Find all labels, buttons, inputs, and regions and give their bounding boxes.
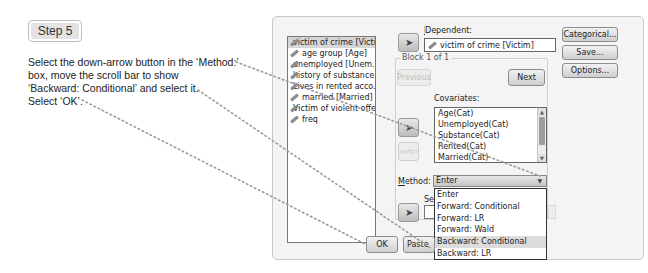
scale-variable-icon (428, 42, 437, 49)
next-button[interactable]: Next (508, 69, 545, 86)
previous-button[interactable]: Previous (397, 69, 431, 86)
variable-item[interactable]: Victim of violent offe... (288, 103, 375, 114)
variable-list[interactable]: victim of crime [Victim] age group [Age]… (287, 36, 376, 243)
variable-item[interactable]: unemployed [Unem... (288, 59, 375, 70)
variable-label: unemployed [Unem... (293, 59, 375, 70)
covariate-item[interactable]: Rented(Cat) (435, 141, 546, 152)
instruction-line: Select ‘OK’. (28, 95, 268, 108)
right-arrow-icon: ➤ (405, 122, 413, 133)
instruction-line: ‘Backward: Conditional’ and select it. (28, 82, 268, 95)
variable-label: age group [Age] (302, 48, 367, 59)
chevron-down-icon[interactable]: ▼ (537, 176, 542, 186)
step-label: Step 5 (31, 23, 79, 39)
ok-button[interactable]: OK (366, 236, 398, 253)
method-option[interactable]: Backward: LR (435, 248, 546, 260)
dependent-field[interactable]: victim of crime [Victim] (424, 38, 556, 52)
selection-variable-label: Se (424, 195, 434, 204)
variable-item[interactable]: age group [Age] (288, 48, 375, 59)
covariate-item[interactable]: Substance(Cat) (435, 130, 546, 141)
variable-item[interactable]: married [Married] (288, 92, 375, 103)
method-label: Method: (398, 177, 431, 186)
block-label: Block 1 of 1 (400, 53, 451, 62)
options-button[interactable]: Options... (562, 63, 618, 78)
method-dropdown[interactable]: Enter Forward: Conditional Forward: LR F… (434, 188, 547, 260)
covariate-item[interactable]: Unemployed(Cat) (435, 119, 546, 130)
variable-label: Victim of violent offe... (293, 103, 375, 114)
dependent-value: victim of crime [Victim] (440, 41, 534, 50)
move-to-dependent-button[interactable]: ➤ (398, 33, 419, 52)
covariates-scrollbar[interactable]: ▲ ▼ (537, 108, 546, 162)
scale-variable-icon (290, 50, 299, 57)
method-option[interactable]: Forward: Wald (435, 224, 546, 236)
variable-label: Lives in rented acco... (293, 81, 375, 92)
scroll-down-icon[interactable]: ▼ (538, 154, 546, 162)
scroll-thumb[interactable] (539, 117, 545, 145)
method-value: Enter (436, 176, 457, 185)
dependent-label-text: Dependent: (425, 26, 472, 35)
covariate-item[interactable]: Married(Cat) (435, 152, 546, 163)
instructions: Select the down-arrow button in the ‘Met… (28, 56, 268, 108)
covariate-item[interactable]: Age(Cat) (435, 108, 546, 119)
variable-item[interactable]: victim of crime [Victim] (288, 37, 375, 48)
variable-item[interactable]: freq (288, 114, 375, 125)
categorical-button[interactable]: Categorical... (562, 27, 618, 42)
scale-variable-icon (290, 116, 299, 123)
variable-label: history of substance... (293, 70, 375, 81)
variable-label: freq (302, 114, 318, 125)
move-to-selection-button[interactable]: ➤ (398, 203, 419, 222)
instruction-line: Select the down-arrow button in the ‘Met… (28, 56, 268, 69)
interaction-button[interactable]: >a*b> (398, 142, 419, 161)
right-arrow-icon: ➤ (405, 207, 413, 218)
scale-variable-icon (290, 94, 299, 101)
scroll-up-icon[interactable]: ▲ (538, 108, 546, 116)
method-select[interactable]: Enter ▼ (433, 175, 547, 187)
covariates-list[interactable]: Age(Cat) Unemployed(Cat) Substance(Cat) … (434, 107, 547, 163)
dependent-label: DDependent: (424, 26, 472, 35)
right-arrow-icon: ➤ (405, 37, 413, 48)
method-option[interactable]: Forward: LR (435, 213, 546, 225)
covariates-label: Covariates: (434, 94, 479, 103)
save-button[interactable]: Save... (562, 45, 618, 60)
variable-label: married [Married] (302, 92, 373, 103)
move-to-covariates-button[interactable]: ➤ (398, 118, 419, 137)
method-option[interactable]: Enter (435, 189, 546, 201)
variable-item[interactable]: Lives in rented acco... (288, 81, 375, 92)
method-option[interactable]: Forward: Conditional (435, 201, 546, 213)
step-badge: Step 5 (28, 20, 82, 42)
rule-button[interactable] (548, 205, 556, 219)
method-option-backward-conditional[interactable]: Backward: Conditional (435, 236, 546, 248)
paste-button[interactable]: Paste (403, 236, 435, 253)
variable-item[interactable]: history of substance... (288, 70, 375, 81)
instruction-line: box, move the scroll bar to show (28, 69, 268, 82)
variable-label: victim of crime [Victim] (293, 37, 375, 48)
